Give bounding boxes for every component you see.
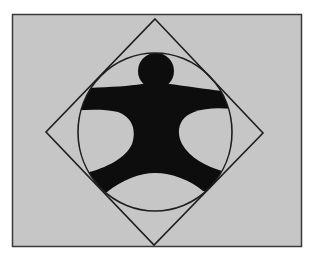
figure-head <box>138 53 174 89</box>
diagram-svg <box>0 0 316 273</box>
diagram-canvas <box>0 0 316 273</box>
